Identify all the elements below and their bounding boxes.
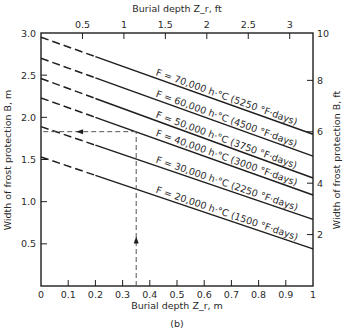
- y-tick-label: 2.0: [21, 112, 36, 123]
- y2-tick-label: 10: [317, 28, 329, 39]
- x-tick-label: 0.5: [169, 289, 184, 300]
- y-tick-label: 0.5: [21, 238, 36, 249]
- y-tick-label: 1.0: [21, 196, 36, 207]
- y-tick-label: 3.0: [21, 28, 36, 39]
- x-axis-top: 0.511.522.53: [75, 19, 293, 39]
- x-tick-label: 0.2: [88, 289, 103, 300]
- x-tick-label: 0.1: [61, 289, 76, 300]
- x2-tick-label: 1.5: [158, 19, 173, 30]
- x-tick-label: 0.8: [251, 289, 266, 300]
- x-axis-bottom: 00.10.20.30.40.50.60.70.80.91: [38, 280, 316, 300]
- x2-tick-label: 1: [121, 19, 127, 30]
- y2-tick-label: 6: [317, 126, 323, 137]
- y2-tick-label: 2: [317, 229, 323, 240]
- example-reading-guide: [41, 129, 139, 286]
- y-axis-title: Width of frost protection B, m: [2, 90, 13, 231]
- y2-tick-label: 4: [317, 178, 323, 189]
- arrow-up-icon: [134, 237, 139, 244]
- frost-index-curves: F = 70,000 h·°C (5250 °F·days)F = 60,000…: [41, 37, 313, 249]
- y-tick-label: 1.5: [21, 154, 36, 165]
- y-tick-label: 2.5: [21, 70, 36, 81]
- y-axis-left: 0.51.01.52.02.53.0: [21, 28, 47, 250]
- x2-axis-title: Burial depth Z_r, ft: [132, 3, 222, 14]
- y2-axis-title: Width of frost protection B, ft: [331, 91, 342, 230]
- x-tick-label: 0.6: [197, 289, 212, 300]
- x-tick-label: 0.9: [278, 289, 293, 300]
- curve-label: F = 20,000 h·°C (1500 °F·days): [155, 184, 300, 242]
- x-axis-title: Burial depth Z_r, m: [131, 300, 223, 311]
- x2-tick-label: 0.5: [75, 19, 90, 30]
- frost-protection-chart: 00.10.20.30.40.50.60.70.80.91 0.511.522.…: [0, 0, 348, 334]
- x-tick-label: 0.4: [142, 289, 157, 300]
- y2-tick-label: 8: [317, 75, 323, 86]
- x-tick-label: 0.3: [115, 289, 130, 300]
- figure-caption: (b): [170, 318, 183, 329]
- x2-tick-label: 2.5: [241, 19, 256, 30]
- x2-tick-label: 2: [204, 19, 210, 30]
- x2-tick-label: 3: [287, 19, 293, 30]
- x-tick-label: 1: [310, 289, 316, 300]
- arrow-left-icon: [76, 129, 83, 134]
- x-tick-label: 0: [38, 289, 44, 300]
- x-tick-label: 0.7: [224, 289, 239, 300]
